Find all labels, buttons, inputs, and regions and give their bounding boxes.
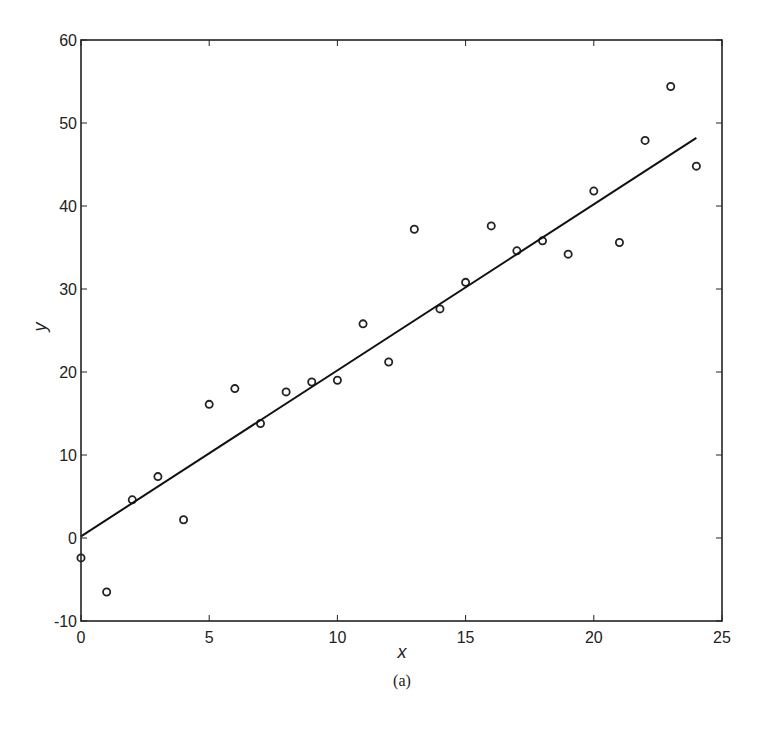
x-tick-label: 15 bbox=[457, 629, 475, 646]
data-point-marker bbox=[641, 137, 648, 144]
scatter-figure: 0510152025-100102030405060 x y (a) bbox=[0, 0, 767, 735]
data-point-marker bbox=[590, 187, 597, 194]
x-tick-label: 10 bbox=[329, 629, 347, 646]
data-points bbox=[77, 83, 700, 596]
y-tick-label: 60 bbox=[59, 32, 77, 49]
data-point-marker bbox=[565, 251, 572, 258]
x-tick-label: 5 bbox=[205, 629, 214, 646]
data-point-marker bbox=[411, 226, 418, 233]
y-tick-label: 10 bbox=[59, 447, 77, 464]
fit-line bbox=[81, 138, 696, 536]
data-point-marker bbox=[206, 401, 213, 408]
data-point-marker bbox=[616, 239, 623, 246]
y-tick-label: 20 bbox=[59, 364, 77, 381]
y-tick-label: 40 bbox=[59, 198, 77, 215]
figure-caption: (a) bbox=[393, 672, 411, 690]
regression-line bbox=[81, 138, 696, 536]
y-axis-label: y bbox=[30, 322, 50, 334]
data-point-marker bbox=[180, 516, 187, 523]
plot-frame bbox=[81, 40, 722, 621]
data-point-marker bbox=[359, 320, 366, 327]
data-point-marker bbox=[693, 163, 700, 170]
y-tick-label: 50 bbox=[59, 115, 77, 132]
scatter-plot: 0510152025-100102030405060 x y (a) bbox=[0, 0, 767, 735]
y-tick-label: -10 bbox=[54, 613, 77, 630]
data-point-marker bbox=[385, 358, 392, 365]
y-tick-label: 0 bbox=[68, 530, 77, 547]
x-axis-label: x bbox=[397, 642, 408, 662]
data-point-marker bbox=[283, 388, 290, 395]
data-point-marker bbox=[103, 588, 110, 595]
axis-ticks: 0510152025-100102030405060 bbox=[54, 32, 731, 646]
x-tick-label: 0 bbox=[77, 629, 86, 646]
data-point-marker bbox=[231, 385, 238, 392]
data-point-marker bbox=[488, 222, 495, 229]
data-point-marker bbox=[334, 377, 341, 384]
y-tick-label: 30 bbox=[59, 281, 77, 298]
data-point-marker bbox=[154, 473, 161, 480]
data-point-marker bbox=[667, 83, 674, 90]
x-tick-label: 20 bbox=[585, 629, 603, 646]
x-tick-label: 25 bbox=[713, 629, 731, 646]
